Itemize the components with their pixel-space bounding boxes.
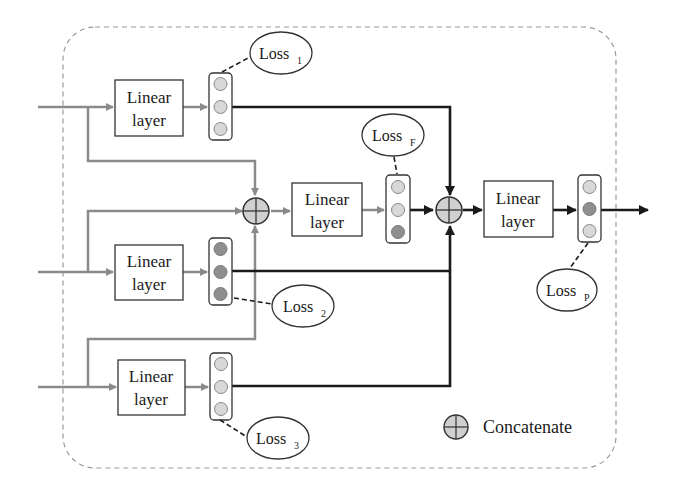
- output-vector-3: [210, 353, 232, 420]
- loss-2-subscript: 2: [321, 308, 326, 319]
- linear-layer-fusion: Linear layer: [292, 183, 362, 236]
- linear-layer-1: Linear layer: [115, 80, 183, 136]
- output-vector-1: [209, 73, 232, 140]
- linear-layer-2-label-top: Linear: [127, 252, 172, 271]
- loss-1-label: Loss: [259, 45, 289, 62]
- linear-layer-3-label-bottom: layer: [134, 390, 168, 409]
- loss-3: Loss 3: [220, 417, 309, 459]
- legend: Concatenate: [444, 415, 572, 439]
- diagram-canvas: Linear layer Linear layer Linear layer L…: [0, 0, 676, 490]
- circle-plus-icon: [444, 415, 468, 439]
- circle-plus-icon: [243, 198, 269, 224]
- loss-2: Loss 2: [234, 285, 334, 327]
- linear-layer-fusion-label-top: Linear: [305, 190, 350, 209]
- output-vector-fusion: [386, 175, 410, 243]
- linear-layer-prediction-label-top: Linear: [496, 189, 541, 208]
- loss-2-label: Loss: [283, 298, 313, 315]
- loss-prediction: Loss P: [537, 243, 597, 311]
- linear-layer-3: Linear layer: [118, 360, 185, 415]
- loss-1-subscript: 1: [297, 55, 302, 66]
- linear-layer-1-label-bottom: layer: [132, 111, 166, 130]
- linear-layer-prediction-label-bottom: layer: [501, 212, 535, 231]
- output-vector-prediction: [578, 175, 601, 242]
- legend-concatenate-label: Concatenate: [483, 417, 572, 437]
- linear-layer-2-label-bottom: layer: [132, 275, 166, 294]
- loss-1: Loss 1: [222, 32, 312, 74]
- loss-3-label: Loss: [256, 430, 286, 447]
- loss-prediction-subscript: P: [584, 292, 590, 303]
- linear-layer-1-label-top: Linear: [127, 88, 172, 107]
- loss-fusion-label: Loss: [372, 127, 402, 144]
- loss-fusion-subscript: F: [410, 137, 416, 148]
- loss-prediction-label: Loss: [546, 282, 576, 299]
- linear-layer-prediction: Linear layer: [484, 181, 553, 237]
- linear-layer-fusion-label-bottom: layer: [310, 213, 344, 232]
- output-vector-2: [209, 238, 232, 305]
- linear-layer-2: Linear layer: [115, 245, 183, 300]
- linear-layer-3-label-top: Linear: [129, 367, 174, 386]
- loss-fusion: Loss F: [362, 114, 424, 174]
- loss-3-subscript: 3: [294, 440, 299, 451]
- circle-plus-icon: [436, 197, 462, 223]
